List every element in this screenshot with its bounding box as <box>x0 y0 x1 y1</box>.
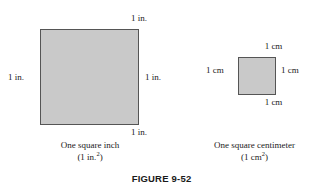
square-centimeter-label-bottom: 1 cm <box>265 97 283 108</box>
square-inch-shape <box>40 29 139 125</box>
square-centimeter-caption-line1: One square centimeter <box>186 139 323 151</box>
square-centimeter-caption-suffix: ) <box>265 152 268 162</box>
square-centimeter-caption: One square centimeter (1 cm2) <box>186 139 323 163</box>
square-inch-label-right: 1 in. <box>145 72 161 83</box>
square-inch-label-bottom: 1 in. <box>131 127 147 138</box>
square-inch-label-top: 1 in. <box>131 13 147 24</box>
square-inch-caption-suffix: ) <box>100 152 103 162</box>
square-centimeter-diagram: 1 cm 1 cm 1 cm 1 cm <box>186 0 323 110</box>
figure-number-label: FIGURE 9-52 <box>0 173 323 184</box>
square-centimeter-shape <box>238 57 276 95</box>
square-centimeter-label-left: 1 cm <box>206 65 224 76</box>
figure-container: 1 in. 1 in. 1 in. 1 in. One square inch … <box>0 0 323 190</box>
square-centimeter-label-right: 1 cm <box>281 65 299 76</box>
square-inch-caption-prefix: (1 in. <box>77 152 96 162</box>
square-inch-caption-line1: One square inch <box>20 139 160 151</box>
square-centimeter-label-top: 1 cm <box>265 41 283 52</box>
square-inch-caption-line2: (1 in.2) <box>20 151 160 163</box>
square-inch-caption: One square inch (1 in.2) <box>20 139 160 163</box>
square-inch-diagram: 1 in. 1 in. 1 in. 1 in. <box>0 0 180 130</box>
square-inch-label-left: 1 in. <box>8 72 24 83</box>
square-centimeter-caption-line2: (1 cm2) <box>186 151 323 163</box>
square-centimeter-caption-prefix: (1 cm <box>241 152 262 162</box>
